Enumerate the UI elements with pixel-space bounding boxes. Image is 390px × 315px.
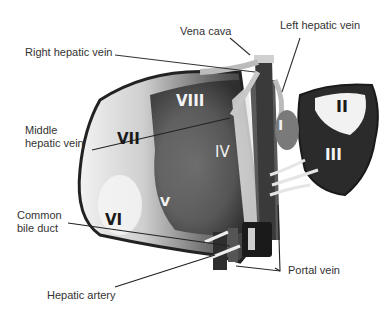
segment-ii: II bbox=[336, 97, 348, 116]
segment-iii: III bbox=[325, 146, 342, 164]
label-vena-cava: Vena cava bbox=[180, 25, 231, 38]
label-left-hepatic-vein: Left hepatic vein bbox=[280, 19, 360, 32]
segment-v: V bbox=[160, 194, 170, 209]
segment-vi: VI bbox=[105, 211, 122, 229]
label-hepatic-artery: Hepatic artery bbox=[47, 289, 115, 302]
segment-viii: VIII bbox=[176, 92, 204, 110]
label-portal-vein: Portal vein bbox=[288, 264, 340, 277]
segment-iv: IV bbox=[215, 143, 230, 161]
segment-i: I bbox=[278, 117, 283, 133]
label-right-hepatic-vein: Right hepatic vein bbox=[25, 46, 112, 59]
label-common-bile-duct: Common bile duct bbox=[17, 209, 62, 235]
label-middle-hepatic-vein: Middle hepatic vein bbox=[25, 124, 84, 150]
segment-vii: VII bbox=[117, 130, 140, 148]
